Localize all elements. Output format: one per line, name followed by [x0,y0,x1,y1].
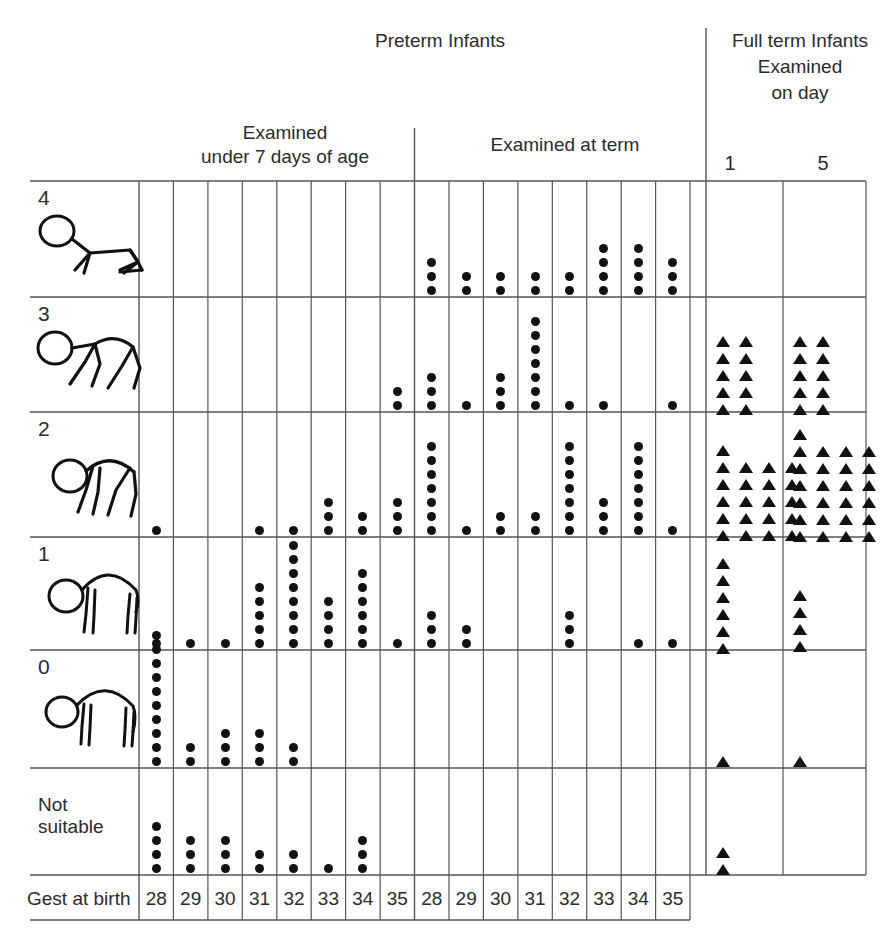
gest-at-birth-label: Gest at birth [27,888,131,910]
data-dot [634,498,643,507]
data-triangle [716,496,730,507]
triangle-row [793,350,830,364]
dot-stack [387,382,407,410]
data-dot [393,526,402,535]
data-dot [565,611,574,620]
data-dot [152,701,161,710]
dot-stack [456,396,476,410]
dot-stack [422,368,442,410]
data-triangle [862,463,876,474]
data-dot [599,526,608,535]
data-dot [393,498,402,507]
data-triangle [716,530,730,541]
gest-column-label: 35 [380,888,414,910]
data-dot [152,836,161,845]
data-dot [427,611,436,620]
data-dot [531,512,540,521]
data-dot [324,597,333,606]
triangle-row [716,640,730,654]
posture-4-icon [40,216,142,273]
posture-2-icon [53,460,136,516]
data-dot [599,258,608,267]
data-triangle [839,463,853,474]
dot-stack [284,536,304,648]
dot-stack [663,396,683,410]
triangle-row [716,527,799,541]
dot-stack [628,239,648,295]
data-triangle [862,497,876,508]
data-triangle [862,446,876,457]
data-dot [565,401,574,410]
data-dot [531,286,540,295]
data-dot [358,864,367,873]
data-triangle [793,463,807,474]
dot-stack [525,507,545,535]
data-dot [324,512,333,521]
data-dot [531,526,540,535]
data-dot [427,286,436,295]
data-triangle [762,479,776,490]
data-dot [289,611,298,620]
data-triangle [793,624,807,635]
data-triangle [816,353,830,364]
data-triangle [762,496,776,507]
data-dot [565,639,574,648]
data-dot [496,272,505,281]
data-triangle [793,756,807,767]
dot-stack [559,606,579,648]
data-dot [599,286,608,295]
data-dot [634,470,643,479]
data-dot [152,631,161,640]
data-dot [289,757,298,766]
triangle-group [716,750,730,767]
dot-stack [491,507,511,535]
dot-stack [387,634,407,648]
gest-column-label: 29 [449,888,483,910]
data-dot [668,639,677,648]
data-dot [186,836,195,845]
data-triangle [716,387,730,398]
data-dot [531,331,540,340]
data-triangle [839,480,853,491]
data-dot [186,757,195,766]
gest-column-label: 28 [139,888,173,910]
data-dot [358,597,367,606]
data-triangle [793,497,807,508]
data-dot [358,611,367,620]
data-dot [289,639,298,648]
dot-stack [284,845,304,873]
data-dot [531,345,540,354]
data-triangle [793,429,807,440]
data-dot [358,569,367,578]
dot-stack [422,606,442,648]
dot-stack [353,831,373,873]
data-dot [221,850,230,859]
gest-column-label: 34 [346,888,380,910]
data-dot [496,373,505,382]
data-dot [393,401,402,410]
gest-column-label: 33 [587,888,621,910]
data-triangle [793,480,807,491]
dot-stack [594,239,614,295]
dot-stack [422,437,442,535]
data-dot [255,743,264,752]
data-dot [668,401,677,410]
data-dot [255,729,264,738]
data-triangle [793,353,807,364]
gest-column-label: 32 [277,888,311,910]
data-dot [324,498,333,507]
data-dot [221,743,230,752]
data-dot [496,512,505,521]
data-dot [531,401,540,410]
data-triangle [816,336,830,347]
data-dot [427,484,436,493]
triangle-row [793,587,807,601]
data-dot [531,272,540,281]
row-label-4: 4 [38,186,50,210]
data-triangle [793,590,807,601]
dot-stack [353,564,373,648]
data-dot [255,597,264,606]
gest-column-label: 35 [656,888,690,910]
gest-column-label: 30 [208,888,242,910]
triangle-row [716,861,730,875]
